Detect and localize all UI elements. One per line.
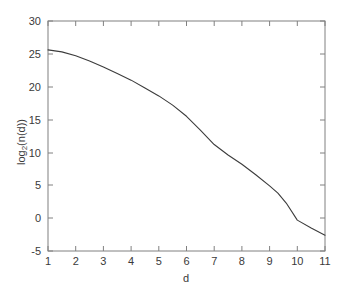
xtick-label-7: 7 [211,256,217,267]
xtick-label-8: 8 [239,256,245,267]
xtick-label-4: 4 [128,256,134,267]
xtick-label-9: 9 [267,256,273,267]
xtick-label-10: 10 [291,256,303,267]
xtick-label-1: 1 [45,256,51,267]
xtick-label-5: 5 [156,256,162,267]
y-axis-title-subscript: 2 [20,146,29,150]
ytick-label-25: 25 [8,49,41,60]
x-axis-title: d [183,272,189,284]
y-axis-title: log2(n(d)) [15,102,27,182]
y-tick-marks [48,21,325,251]
xtick-label-3: 3 [100,256,106,267]
xtick-label-2: 2 [73,256,79,267]
ytick-label-0: 0 [8,213,41,224]
xtick-label-11: 11 [319,256,330,267]
data-series-line [48,50,325,235]
plot-area [0,0,343,295]
ytick-label-30: 30 [8,16,41,27]
ytick-label-20: 20 [8,82,41,93]
ytick-label-minus5: -5 [8,246,41,257]
axes-frame [48,21,325,251]
chart-figure: 30 25 20 15 10 5 0 -5 1 2 3 4 5 6 7 8 9 … [0,0,343,295]
y-axis-title-rest: (n(d)) [15,119,27,146]
x-tick-marks [48,21,325,251]
y-axis-title-base: log [15,150,27,165]
xtick-label-6: 6 [183,256,189,267]
